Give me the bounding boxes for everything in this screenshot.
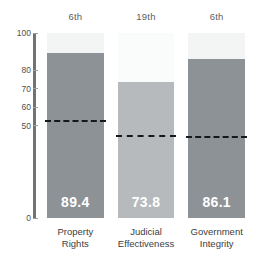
bar-value-government-integrity: 86.1 — [188, 194, 245, 210]
rank-label-property-rights: 6th — [40, 8, 111, 26]
column-government-integrity: 86.1 — [181, 26, 252, 218]
rank-label-row: 6th 19th 6th — [40, 8, 252, 26]
plot-area: 100 80 70 60 50 0 89.4 — [0, 26, 256, 222]
category-label-line1: Judicial — [112, 226, 181, 238]
y-tick-60: 60 — [0, 102, 40, 112]
category-label-property-rights: Property Rights — [40, 226, 111, 249]
category-label-line1: Government — [182, 226, 251, 238]
category-label-row: Property Rights Judicial Effectiveness G… — [40, 226, 252, 249]
bar-chart: 6th 19th 6th 100 80 70 60 50 0 — [0, 0, 256, 261]
bar-property-rights[interactable]: 89.4 — [47, 53, 104, 218]
category-label-government-integrity: Government Integrity — [181, 226, 252, 249]
bar-judicial-effectiveness[interactable]: 73.8 — [118, 82, 175, 219]
column-property-rights: 89.4 — [40, 26, 111, 218]
category-label-judicial-effectiveness: Judicial Effectiveness — [111, 226, 182, 249]
category-label-line2: Integrity — [182, 238, 251, 250]
y-tick-0: 0 — [0, 213, 40, 223]
reference-line-government-integrity — [186, 136, 247, 138]
bar-value-property-rights: 89.4 — [47, 194, 104, 210]
bar-value-judicial-effectiveness: 73.8 — [118, 194, 175, 210]
reference-line-judicial-effectiveness — [116, 135, 177, 137]
category-label-line2: Effectiveness — [112, 238, 181, 250]
y-tick-50: 50 — [0, 121, 40, 131]
category-label-line2: Rights — [41, 238, 110, 250]
reference-line-property-rights — [45, 120, 106, 122]
y-tick-100: 100 — [0, 28, 40, 38]
y-tick-70: 70 — [0, 84, 40, 94]
bar-columns: 89.4 73.8 86.1 — [40, 26, 252, 218]
column-judicial-effectiveness: 73.8 — [111, 26, 182, 218]
category-label-line1: Property — [41, 226, 110, 238]
rank-label-government-integrity: 6th — [181, 8, 252, 26]
y-tick-80: 80 — [0, 65, 40, 75]
rank-label-judicial-effectiveness: 19th — [111, 8, 182, 26]
